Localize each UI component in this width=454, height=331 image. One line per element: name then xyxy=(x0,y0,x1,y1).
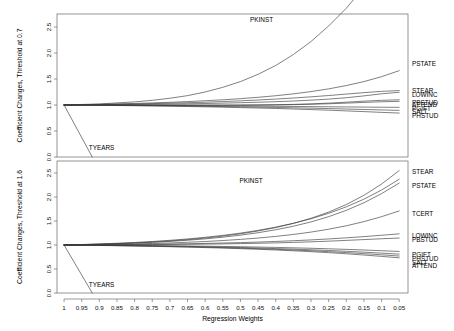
x-axis: 10.950.90.850.80.750.70.650.60.550.50.45… xyxy=(62,299,405,323)
x-tick-label: 0.5 xyxy=(236,304,245,311)
plot-frame xyxy=(57,14,408,157)
x-tick-label: 0.05 xyxy=(393,304,406,311)
y-tick-label: 1.5 xyxy=(45,74,52,83)
x-tick-label: 0.8 xyxy=(130,304,139,311)
y-tick-label: 2.5 xyxy=(45,22,52,31)
y-tick-label: 0.5 xyxy=(45,264,52,273)
x-tick-label: 0.2 xyxy=(342,304,351,311)
x-tick-label: 0.55 xyxy=(217,304,230,311)
series-label-PBSTUD: PBSTUD xyxy=(412,236,438,243)
y-tick-label: 2.5 xyxy=(45,168,52,177)
series-line-PSTATE xyxy=(64,71,399,105)
y-tick-label: 2.0 xyxy=(45,48,52,57)
x-tick-label: 0.75 xyxy=(146,304,159,311)
series-label-PKINST: PKINST xyxy=(250,16,273,23)
y-tick-label: 0.0 xyxy=(45,152,52,161)
coefficient-change-plot: 0.00.51.01.52.02.5Coefficient Changes, T… xyxy=(0,0,454,331)
series-line-TCERT xyxy=(64,211,399,245)
x-tick-label: 0.3 xyxy=(307,304,316,311)
y-axis-title: Coefficient Changes, Threshold at 0.7 xyxy=(16,28,24,142)
plot-frame xyxy=(57,161,408,293)
x-tick-label: 0.45 xyxy=(252,304,265,311)
series-label-STEAR: STEAR xyxy=(412,168,434,175)
series-label-ATTEND: ATTEND xyxy=(412,262,437,269)
x-tick-label: 0.9 xyxy=(95,304,104,311)
x-tick-label: 0.25 xyxy=(323,304,336,311)
x-tick-label: 0.7 xyxy=(166,304,175,311)
series-line-PSTATE xyxy=(64,183,399,245)
y-tick-label: 1.5 xyxy=(45,216,52,225)
x-tick-label: 0.35 xyxy=(287,304,300,311)
y-axis-title: Coefficient Changes, Threshold at 1.6 xyxy=(16,170,24,284)
x-tick-label: 0.85 xyxy=(111,304,124,311)
x-tick-label: 0.6 xyxy=(201,304,210,311)
x-axis-title: Regression Weights xyxy=(202,315,263,323)
y-tick-label: 0.5 xyxy=(45,126,52,135)
series-label-PHSTUD: PHSTUD xyxy=(412,112,439,119)
series-label-TYEARS: TYEARS xyxy=(89,144,115,151)
series-label-PSTATE: PSTATE xyxy=(412,60,436,67)
x-tick-label: 0.4 xyxy=(271,304,280,311)
series-line-PKINST xyxy=(64,0,399,105)
series-line-STEAR xyxy=(64,171,399,245)
series-label-PKINST: PKINST xyxy=(239,177,262,184)
x-tick-label: 0.95 xyxy=(76,304,89,311)
panel-bottom: 0.00.51.01.52.02.5Coefficient Changes, T… xyxy=(16,161,439,297)
series-label-LOWINC: LOWINC xyxy=(412,91,438,98)
y-tick-label: 1.0 xyxy=(45,100,52,109)
series-label-TCERT: TCERT xyxy=(412,210,433,217)
panel-top: 0.00.51.01.52.02.5Coefficient Changes, T… xyxy=(16,0,439,161)
y-tick-label: 2.0 xyxy=(45,192,52,201)
x-tick-label: 0.15 xyxy=(358,304,371,311)
x-tick-label: 0.65 xyxy=(181,304,194,311)
series-label-TYEARS: TYEARS xyxy=(89,281,115,288)
x-tick-label: 0.1 xyxy=(377,304,386,311)
y-tick-label: 1.0 xyxy=(45,240,52,249)
y-tick-label: 0.0 xyxy=(45,288,52,297)
series-label-PSTATE: PSTATE xyxy=(412,182,436,189)
x-tick-label: 1 xyxy=(62,304,66,311)
figure-container: 0.00.51.01.52.02.5Coefficient Changes, T… xyxy=(0,0,454,331)
